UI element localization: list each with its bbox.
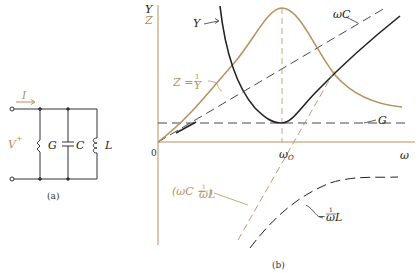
admittance-graph: [158, 5, 415, 248]
label-L: L: [104, 139, 112, 152]
label-Z-den: Y: [194, 79, 203, 92]
caption-b: (b): [272, 260, 285, 270]
current-label: I: [21, 89, 27, 102]
label-C: C: [76, 139, 85, 152]
label-diff-close: ): [209, 186, 213, 197]
curve-Y: [220, 6, 400, 123]
label-G: G: [48, 139, 57, 152]
resonance-label: ωO: [279, 148, 294, 162]
label-Y: Y: [193, 17, 202, 30]
origin-label: 0: [151, 148, 157, 158]
figure: I V + G C L (a) Y Z 0 ωO: [0, 0, 419, 273]
label-omega-C: ωC: [333, 8, 351, 21]
label-Z-lhs: Z =: [172, 76, 193, 89]
label-G-curve: G: [378, 114, 387, 127]
top-terminal: [10, 107, 14, 111]
y-axis-label-Z: Z: [144, 14, 153, 27]
bottom-terminal: [10, 177, 14, 181]
inductor-symbol: [93, 138, 97, 153]
conductance-symbol: [37, 140, 40, 152]
voltage-polarity: +: [16, 134, 23, 143]
label-invL-prefix: −: [318, 211, 326, 221]
caption-a: (a): [47, 191, 59, 201]
x-axis-label: ω: [400, 149, 409, 162]
label-invL-den: ωL: [326, 211, 342, 224]
